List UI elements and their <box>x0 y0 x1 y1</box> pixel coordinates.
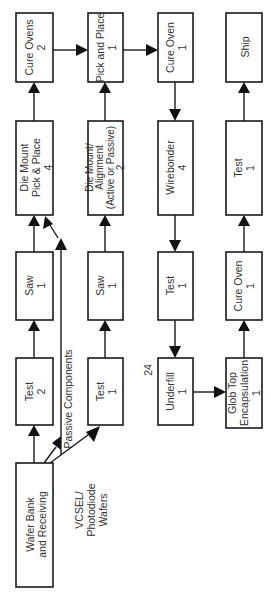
arrowhead-icon <box>99 320 111 331</box>
label-saw-b: Saw1 <box>88 252 123 320</box>
label-ship: Ship <box>227 13 263 82</box>
label-cure-oven-a: Cure Oven1 <box>158 13 193 82</box>
label-cure-ovens: Cure Ovens2 <box>16 13 53 82</box>
arrowhead-icon <box>55 238 67 250</box>
label-saw-a: Saw1 <box>16 252 53 320</box>
arrowhead-icon <box>214 386 226 398</box>
arrowhead-icon <box>86 426 100 442</box>
arrowhead-icon <box>28 82 40 93</box>
label-underfill: Underfill1 <box>158 358 193 425</box>
label-die-mount-alignment: Die Mount/Alignment(Active or Passive)2 <box>88 121 123 215</box>
label-wafer-bank: Wafer Bankand Receiving <box>17 463 54 587</box>
label-cure-oven-b: Cure Oven1 <box>226 252 262 320</box>
label-test-1c: Test1 <box>226 121 262 215</box>
arrowhead-icon <box>169 346 181 358</box>
label-die-mount-pick-place: Die MountPick & Place4 <box>17 121 54 215</box>
passive-components-label: Passive Components <box>62 344 76 454</box>
arrowhead-icon <box>99 215 111 226</box>
arrowhead-icon <box>99 82 111 93</box>
label-test-1a: Test1 <box>88 358 123 425</box>
arrowhead-icon <box>52 436 61 450</box>
arrowhead-icon <box>76 44 88 56</box>
arrowhead-icon <box>146 44 158 56</box>
arrowhead-icon <box>28 320 40 331</box>
page-number: 24 <box>142 360 154 380</box>
label-wirebonder: Wirebonder4 <box>158 121 193 215</box>
arrowhead-icon <box>238 215 250 226</box>
arrowhead-icon <box>238 82 250 93</box>
label-test-2: Test2 <box>16 358 53 425</box>
arrowhead-icon <box>28 425 40 436</box>
arrowhead-icon <box>169 240 181 252</box>
arrowhead-icon <box>169 109 181 121</box>
arrowhead-icon <box>28 215 40 226</box>
label-pick-and-place: Pick and Place1 <box>88 13 123 82</box>
arrowhead-icon <box>238 320 250 331</box>
vcsel-wafers-label: VCSEL/ Photodiode Wafers <box>73 475 113 545</box>
label-test-1b: Test1 <box>158 252 193 320</box>
label-glob-top: Glob TopEncapsulation1 <box>226 358 262 428</box>
